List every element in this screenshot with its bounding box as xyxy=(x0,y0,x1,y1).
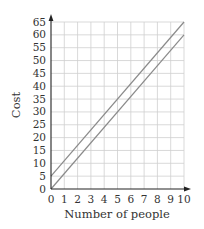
y-tick-label: 65 xyxy=(33,16,46,28)
y-tick-label: 40 xyxy=(33,80,46,92)
y-tick-label: 15 xyxy=(33,144,46,156)
x-tick-label: 3 xyxy=(88,193,95,205)
x-axis-arrow-icon xyxy=(184,187,191,192)
y-tick-label: 0 xyxy=(39,183,46,195)
x-tick-label: 4 xyxy=(101,193,108,205)
y-tick-labels: 05101520253035404550556065 xyxy=(33,16,46,195)
y-tick-label: 30 xyxy=(33,105,46,117)
x-tick-label: 5 xyxy=(114,193,121,205)
y-tick-label: 45 xyxy=(33,67,46,79)
x-tick-label: 7 xyxy=(141,193,148,205)
x-axis-label: Number of people xyxy=(64,207,170,221)
y-tick-label: 25 xyxy=(33,118,46,130)
x-tick-label: 2 xyxy=(74,193,81,205)
x-tick-label: 9 xyxy=(167,193,174,205)
y-tick-label: 60 xyxy=(33,28,46,40)
x-tick-label: 0 xyxy=(48,193,55,205)
y-tick-label: 5 xyxy=(39,170,46,182)
y-axis-arrow-icon xyxy=(49,14,54,21)
y-tick-label: 50 xyxy=(33,54,46,66)
y-tick-label: 55 xyxy=(33,41,46,53)
x-tick-label: 1 xyxy=(61,193,68,205)
x-tick-labels: 012345678910 xyxy=(48,193,191,205)
x-tick-label: 6 xyxy=(127,193,134,205)
chart: 05101520253035404550556065 012345678910 … xyxy=(0,0,204,229)
y-tick-label: 10 xyxy=(33,157,46,169)
x-tick-label: 10 xyxy=(177,193,190,205)
y-tick-label: 20 xyxy=(33,131,46,143)
axes xyxy=(49,14,191,191)
y-axis-label: Cost xyxy=(9,92,23,119)
y-tick-label: 35 xyxy=(33,93,46,105)
grid xyxy=(51,22,184,189)
x-tick-label: 8 xyxy=(154,193,161,205)
